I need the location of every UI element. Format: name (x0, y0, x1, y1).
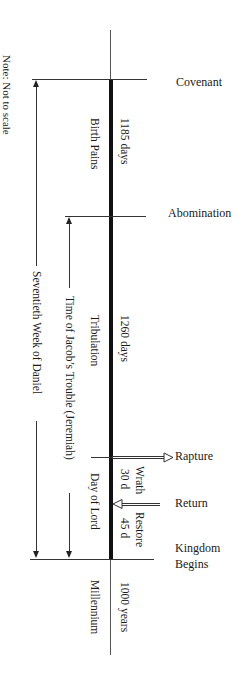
rapture-arrowhead-icon (164, 453, 173, 462)
arrowheads-layer (0, 0, 246, 680)
return-arrowhead-icon (113, 500, 122, 509)
return-label: Return (175, 496, 208, 511)
return-arrow-shaft (122, 503, 160, 506)
rapture-label: Rapture (175, 449, 213, 464)
